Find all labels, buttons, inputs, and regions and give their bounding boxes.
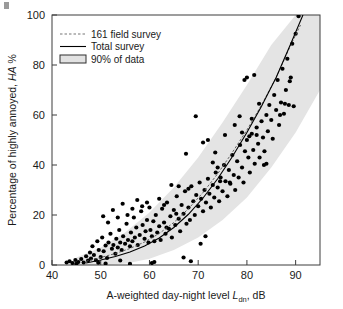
data-point: [174, 212, 178, 216]
data-point: [204, 200, 208, 204]
data-point: [217, 199, 221, 203]
data-point: [193, 213, 197, 217]
data-point: [256, 142, 260, 146]
data-point: [162, 220, 166, 224]
data-point: [237, 175, 241, 179]
data-point: [90, 244, 94, 248]
data-point: [255, 125, 259, 129]
data-point: [123, 242, 127, 246]
data-point: [264, 162, 268, 166]
data-point: [143, 229, 147, 233]
legend-item: 90% of data: [60, 54, 145, 65]
data-point: [282, 112, 286, 116]
data-point: [139, 209, 143, 213]
data-point: [188, 218, 192, 222]
data-point: [151, 219, 155, 223]
data-point: [138, 233, 142, 237]
y-tick-label: 100: [27, 9, 45, 21]
data-point: [283, 102, 287, 106]
legend-label: 90% of data: [91, 54, 145, 65]
data-point: [198, 180, 202, 184]
x-tick-label: 70: [192, 269, 204, 281]
x-tick-label: 40: [46, 269, 58, 281]
data-point: [274, 108, 278, 112]
x-tick-label: 80: [241, 269, 253, 281]
data-point: [104, 243, 108, 247]
data-point: [134, 225, 138, 229]
data-point: [246, 155, 250, 159]
data-point: [108, 232, 112, 236]
data-point: [223, 179, 227, 183]
data-point: [261, 135, 265, 139]
data-point: [84, 254, 88, 258]
data-point: [253, 162, 257, 166]
data-point: [160, 207, 164, 211]
data-point: [145, 218, 149, 222]
data-point: [233, 123, 237, 127]
data-point: [245, 75, 249, 79]
data-point: [279, 100, 283, 104]
data-point: [117, 228, 121, 232]
data-point: [175, 194, 179, 198]
data-point: [116, 215, 120, 219]
figure-container: 405060708090020406080100 161 field surve…: [0, 0, 343, 309]
data-point: [227, 168, 231, 172]
data-point: [82, 260, 86, 264]
data-point: [269, 118, 273, 122]
legend-swatch-band: [60, 55, 86, 63]
data-point: [104, 261, 108, 265]
data-point: [247, 134, 251, 138]
confidence-band: [76, 15, 320, 265]
data-point: [255, 133, 259, 137]
data-point: [145, 200, 149, 204]
data-point: [135, 198, 139, 202]
data-point: [130, 239, 134, 243]
data-point: [178, 229, 182, 233]
data-point: [183, 189, 187, 193]
data-point: [150, 261, 154, 265]
annoyance-scatter-chart: 405060708090020406080100 161 field surve…: [0, 0, 343, 309]
data-point: [216, 185, 220, 189]
data-point: [141, 223, 145, 227]
data-point: [259, 119, 263, 123]
data-point: [194, 114, 198, 118]
data-point: [251, 148, 255, 152]
legend-item: Total survey: [60, 41, 144, 52]
data-point: [240, 130, 244, 134]
data-point: [177, 217, 181, 221]
data-point: [184, 152, 188, 156]
data-point: [225, 194, 229, 198]
data-point: [241, 180, 245, 184]
y-axis-title: Percentage of highly annoyed, HA %: [6, 54, 18, 226]
y-tick-label: 60: [33, 109, 45, 121]
data-point: [267, 103, 271, 107]
data-point: [199, 242, 203, 246]
data-point: [235, 159, 239, 163]
data-point: [233, 188, 237, 192]
data-point: [223, 133, 227, 137]
data-point: [116, 245, 120, 249]
data-point: [180, 203, 184, 207]
data-point: [287, 103, 291, 107]
data-point: [125, 213, 129, 217]
legend-label: Total survey: [91, 41, 144, 52]
data-point: [95, 239, 99, 243]
data-point: [142, 237, 146, 241]
data-point: [232, 173, 236, 177]
data-point: [257, 102, 261, 106]
data-point: [184, 222, 188, 226]
data-point: [209, 205, 213, 209]
data-point: [264, 113, 268, 117]
data-point: [288, 79, 292, 83]
x-tick-label: 60: [143, 269, 155, 281]
data-point: [148, 228, 152, 232]
page-corner-artifact: [4, 2, 9, 9]
data-point: [157, 197, 161, 201]
data-point: [172, 208, 176, 212]
data-point: [292, 104, 296, 108]
x-axis-title: A-weighted day-night level Ldn, dB: [107, 289, 266, 304]
data-point: [170, 235, 174, 239]
data-point: [121, 202, 125, 206]
data-point: [106, 220, 110, 224]
data-point: [136, 243, 140, 247]
